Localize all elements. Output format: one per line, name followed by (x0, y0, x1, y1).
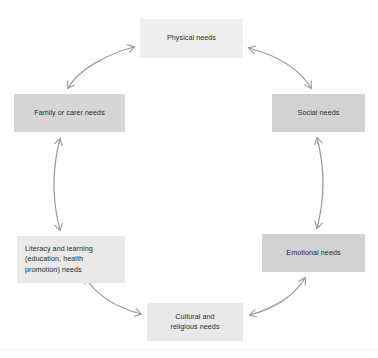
node-literacy-learning-needs[interactable]: Literacy and learning (education, health… (17, 236, 125, 283)
connector-literacy-family (54, 139, 60, 230)
node-emotional-needs-label: Emotional needs (286, 248, 340, 258)
node-physical-needs[interactable]: Physical needs (140, 19, 243, 58)
bottom-divider (0, 349, 378, 350)
node-physical-needs-label: Physical needs (167, 33, 216, 43)
connector-family-physical (68, 47, 134, 88)
connector-emotional-cultural (250, 278, 305, 315)
connector-physical-social (249, 48, 311, 88)
node-family-carer-needs[interactable]: Family or carer needs (14, 94, 125, 132)
connector-social-emotional (317, 138, 323, 228)
node-family-carer-needs-label: Family or carer needs (34, 108, 105, 118)
node-emotional-needs[interactable]: Emotional needs (262, 234, 365, 272)
cycle-diagram: Physical needs Social needs Emotional ne… (0, 0, 378, 358)
node-cultural-religious-needs[interactable]: Cultural and religious needs (147, 303, 243, 341)
node-social-needs-label: Social needs (298, 108, 340, 118)
node-social-needs[interactable]: Social needs (272, 94, 365, 132)
node-literacy-learning-needs-label: Literacy and learning (education, health… (25, 244, 93, 275)
node-cultural-religious-needs-label: Cultural and religious needs (170, 312, 219, 333)
